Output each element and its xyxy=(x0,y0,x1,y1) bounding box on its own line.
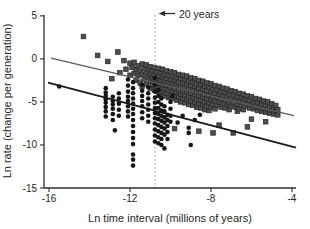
data-point-square xyxy=(197,129,202,134)
data-point-circle xyxy=(146,96,151,101)
data-point-circle xyxy=(113,128,118,133)
data-point-circle xyxy=(140,99,145,104)
data-point-circle xyxy=(140,88,145,93)
data-point-circle xyxy=(153,76,158,81)
data-point-circle xyxy=(159,143,164,148)
x-tick-label: -16 xyxy=(42,193,57,204)
x-tick-label: -4 xyxy=(287,193,296,204)
data-point-circle xyxy=(126,83,131,88)
data-point-square xyxy=(95,53,100,58)
data-point-circle xyxy=(186,131,191,136)
data-point-circle xyxy=(165,137,170,142)
data-point-circle xyxy=(103,100,108,105)
figure-canvas: -16-12-8-450-5-10-15 Ln time interval (m… xyxy=(0,0,310,229)
data-point-circle xyxy=(126,77,131,82)
y-tick-label: 5 xyxy=(31,10,37,21)
data-point-square xyxy=(122,58,127,63)
data-point-circle xyxy=(103,105,108,110)
data-point-square xyxy=(249,117,254,122)
data-point-square xyxy=(245,125,250,130)
data-point-circle xyxy=(131,130,136,135)
data-point-circle xyxy=(126,94,131,99)
data-point-circle xyxy=(140,110,145,115)
data-point-circle xyxy=(131,112,136,117)
data-point-circle xyxy=(131,80,136,85)
data-point-circle xyxy=(131,86,136,91)
data-point-square xyxy=(275,113,280,118)
data-point-circle xyxy=(175,120,180,125)
y-tick-label: 0 xyxy=(31,53,37,64)
data-point-circle xyxy=(198,113,203,118)
annotation-label: 20 years xyxy=(179,8,219,20)
data-point-circle xyxy=(186,125,191,130)
data-point-circle xyxy=(117,113,122,118)
data-point-circle xyxy=(117,107,122,112)
data-point-circle xyxy=(103,109,108,114)
data-point-square xyxy=(263,119,268,124)
data-point-circle xyxy=(168,119,173,124)
data-point-circle xyxy=(140,94,145,99)
data-point-circle xyxy=(131,96,136,101)
data-point-circle xyxy=(126,89,131,94)
scatter-chart: -16-12-8-450-5-10-15 Ln time interval (m… xyxy=(0,0,310,229)
y-tick-label: -5 xyxy=(28,96,37,107)
data-point-circle xyxy=(126,114,131,119)
data-point-circle xyxy=(146,102,151,107)
x-axis-label: Ln time interval (millions of years) xyxy=(88,212,252,224)
data-points-layer xyxy=(57,34,280,168)
data-point-circle xyxy=(146,119,151,124)
data-point-square xyxy=(211,131,216,136)
data-point-square xyxy=(116,50,121,55)
data-point-circle xyxy=(146,85,151,90)
y-axis-label: Ln rate (change per generation) xyxy=(1,24,13,179)
data-point-circle xyxy=(117,91,122,96)
data-point-circle xyxy=(146,113,151,118)
data-point-circle xyxy=(168,107,173,112)
y-tick-label: -15 xyxy=(23,183,38,194)
data-point-square xyxy=(124,67,129,72)
data-point-circle xyxy=(131,157,136,162)
data-point-circle xyxy=(131,163,136,168)
annotation-arrow-head-icon xyxy=(159,11,165,16)
squares-trend xyxy=(51,58,294,116)
data-point-circle xyxy=(111,107,116,112)
data-point-circle xyxy=(131,142,136,147)
data-point-circle xyxy=(140,116,145,121)
data-point-circle xyxy=(131,124,136,129)
data-point-circle xyxy=(140,82,145,87)
x-tick-label: -8 xyxy=(207,193,216,204)
data-point-circle xyxy=(162,104,167,109)
data-point-circle xyxy=(146,91,151,96)
data-point-circle xyxy=(126,109,131,114)
data-point-circle xyxy=(156,88,161,93)
data-point-square xyxy=(105,59,110,64)
data-point-circle xyxy=(111,118,116,123)
data-point-circle xyxy=(188,143,193,148)
data-point-square xyxy=(81,34,86,39)
x-tick-label: -12 xyxy=(123,193,138,204)
data-point-circle xyxy=(159,137,164,142)
data-point-circle xyxy=(165,124,170,129)
data-point-circle xyxy=(165,130,170,135)
y-tick-label: -10 xyxy=(23,139,38,150)
data-point-circle xyxy=(103,114,108,119)
data-point-circle xyxy=(103,86,108,91)
data-point-circle xyxy=(131,136,136,141)
data-point-circle xyxy=(168,100,173,105)
data-point-circle xyxy=(131,152,136,157)
data-point-circle xyxy=(159,96,164,101)
data-point-square xyxy=(172,126,177,131)
data-point-circle xyxy=(131,91,136,96)
data-point-square xyxy=(273,103,278,108)
data-point-circle xyxy=(162,146,167,151)
data-point-square xyxy=(110,76,115,81)
twenty-years-annotation: 20 years xyxy=(159,8,219,20)
data-point-circle xyxy=(131,118,136,123)
data-point-circle xyxy=(131,107,136,112)
data-point-circle xyxy=(111,102,116,107)
data-point-circle xyxy=(170,94,175,99)
data-point-circle xyxy=(111,112,116,117)
